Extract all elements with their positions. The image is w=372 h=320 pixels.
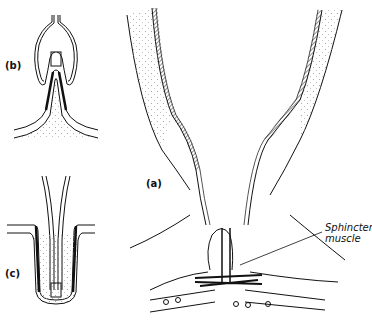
panel-label-c: (c): [5, 268, 20, 279]
annotation-line-1: Sphincter: [325, 222, 372, 233]
panel-b-drawing: [14, 15, 98, 138]
panel-c-drawing: [7, 176, 95, 304]
diagram-canvas: (b) (c) (a) Sphincter muscle: [0, 0, 372, 320]
panel-label-a: (a): [146, 178, 162, 189]
panel-label-b: (b): [5, 60, 21, 71]
diagram-drawing: [0, 0, 372, 320]
annotation-line-2: muscle: [325, 233, 372, 244]
panel-a-drawing: [127, 8, 345, 312]
sphincter-muscle-label: Sphincter muscle: [325, 222, 372, 244]
